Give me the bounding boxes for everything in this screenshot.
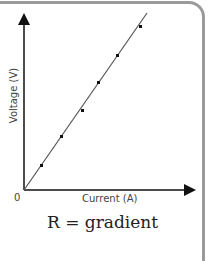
data-point [40, 164, 43, 167]
data-point [60, 135, 63, 138]
origin-label: 0 [14, 192, 20, 203]
caption: R = gradient [0, 212, 205, 232]
best-fit-line [24, 13, 147, 190]
x-axis-label: Current (A) [82, 193, 137, 204]
y-axis-label: Voltage (V) [8, 61, 19, 131]
data-point [81, 109, 84, 112]
data-point [97, 81, 100, 84]
data-point [139, 25, 142, 28]
data-point [116, 54, 119, 57]
